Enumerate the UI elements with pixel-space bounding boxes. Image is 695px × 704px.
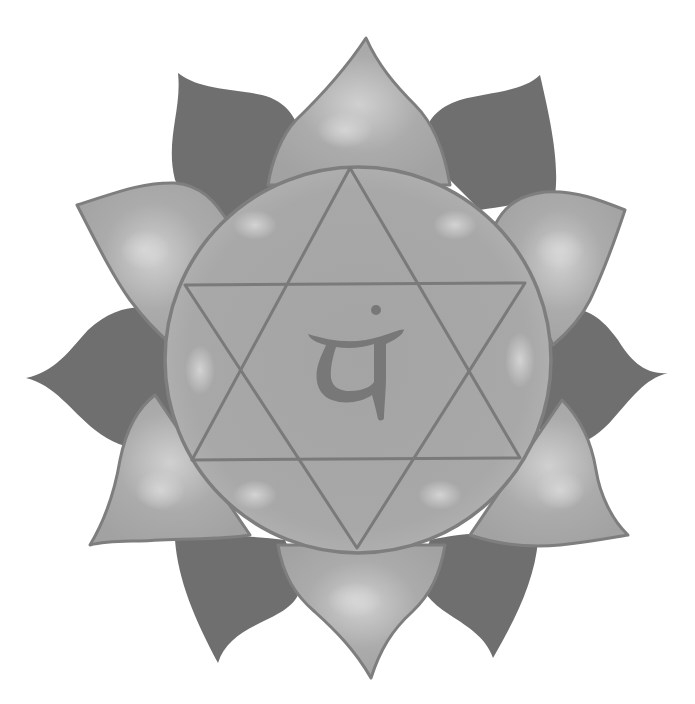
light-petal-top xyxy=(268,38,450,185)
glyph-dot xyxy=(371,305,381,315)
chakra-lotus-illustration xyxy=(0,0,695,704)
central-circle xyxy=(165,167,551,553)
